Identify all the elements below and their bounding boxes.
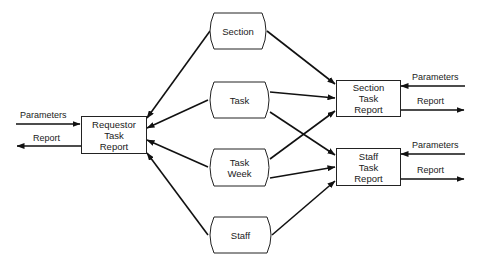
section-file-node: Section — [208, 12, 268, 50]
arrow-taskweek-to-staff-report — [270, 167, 335, 178]
section-task-report-box: Section Task Report — [336, 80, 401, 117]
arrow-staff-to-requestor — [147, 153, 208, 235]
arrow-staff-to-staff-report — [272, 181, 335, 235]
label-parameters-staff: Parameters — [412, 140, 459, 150]
arrow-taskweek-to-requestor — [147, 140, 208, 167]
requestor-line-3: Report — [100, 141, 129, 152]
requestor-line-1: Requestor — [92, 119, 136, 130]
label-parameters-section: Parameters — [412, 72, 459, 82]
task-week-line-1: Task — [230, 157, 250, 168]
section-report-line-1: Section — [353, 82, 385, 93]
task-file-label: Task — [230, 95, 250, 106]
section-report-line-3: Report — [354, 104, 383, 115]
section-report-line-2: Task — [359, 93, 379, 104]
label-parameters-left: Parameters — [20, 110, 67, 120]
staff-report-line-1: Staff — [359, 151, 378, 162]
staff-report-line-2: Task — [359, 162, 379, 173]
arrow-section-to-requestor — [147, 31, 210, 118]
staff-file-label: Staff — [231, 230, 250, 241]
label-report-staff: Report — [417, 165, 444, 175]
staff-task-report-box: Staff Task Report — [336, 148, 401, 186]
requestor-task-report-box: Requestor Task Report — [81, 116, 147, 154]
task-file-node: Task — [208, 81, 271, 119]
staff-file-node: Staff — [208, 216, 273, 254]
label-report-left: Report — [33, 133, 60, 143]
requestor-line-2: Task — [104, 130, 124, 141]
task-week-line-2: Week — [227, 168, 251, 179]
task-week-file-node: Task Week — [208, 148, 271, 187]
arrow-section-to-section-report — [267, 31, 335, 84]
arrow-task-to-section-report — [270, 92, 335, 98]
section-file-label: Section — [222, 26, 254, 37]
label-report-section: Report — [417, 96, 444, 106]
staff-report-line-3: Report — [354, 173, 383, 184]
